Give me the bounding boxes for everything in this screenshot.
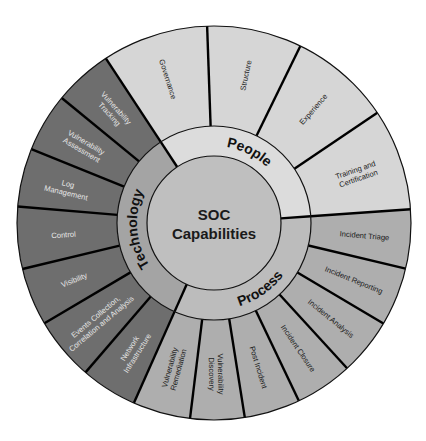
center-title-line2: Capabilities bbox=[172, 225, 256, 242]
soc-capabilities-wheel: GovernanceStructureExperienceTraining an… bbox=[0, 0, 426, 441]
center-circle bbox=[147, 156, 281, 290]
center-title-line1: SOC bbox=[198, 206, 231, 223]
segment-label-vulnerability-discovery: VulnerabilityDiscovery bbox=[207, 353, 226, 395]
center-hub: SOC Capabilities bbox=[147, 156, 281, 290]
segment-label-control: Control bbox=[51, 230, 76, 241]
